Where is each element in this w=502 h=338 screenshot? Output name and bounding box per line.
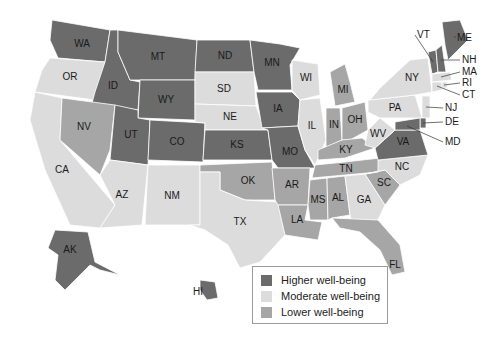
state-label: NE: [223, 111, 237, 122]
state-label: ID: [108, 80, 118, 91]
us-wellbeing-map: WAORCAIDNVMTWYUTAZCONMNDSDNEKSOKTXMNIAMO…: [0, 0, 502, 338]
state-label: NY: [405, 72, 419, 83]
legend-label: Moderate well-being: [281, 290, 380, 302]
state-label: IN: [329, 119, 339, 130]
legend: Higher well-being Moderate well-being Lo…: [252, 266, 388, 324]
state-label: CA: [55, 164, 69, 175]
legend-item-lower: Lower well-being: [261, 304, 387, 320]
state-label: NM: [164, 190, 180, 201]
state-label: DE: [445, 116, 459, 127]
state-label: IL: [308, 120, 317, 131]
legend-item-moderate: Moderate well-being: [261, 288, 387, 304]
legend-label: Lower well-being: [281, 306, 364, 318]
state-label: AR: [285, 179, 299, 190]
state-label: WA: [74, 38, 90, 49]
state-label: WI: [300, 72, 312, 83]
state-label: WV: [370, 128, 386, 139]
state-label: MO: [282, 146, 298, 157]
state-label: NV: [77, 121, 91, 132]
state-label: RI: [462, 77, 472, 88]
state-ak: [48, 230, 120, 290]
state-label: TX: [234, 216, 247, 227]
state-label: UT: [124, 129, 137, 140]
state-label: HI: [193, 286, 203, 297]
state-label: SC: [377, 177, 391, 188]
state-label: KY: [339, 144, 353, 155]
state-md: [395, 118, 420, 130]
state-label: NC: [395, 161, 409, 172]
moderate-swatch-icon: [261, 291, 272, 302]
state-label: AL: [332, 192, 345, 203]
state-label: SD: [217, 83, 231, 94]
state-label: MS: [311, 194, 326, 205]
state-label: VT: [417, 29, 430, 40]
state-label: VA: [397, 136, 410, 147]
state-label: OR: [63, 71, 78, 82]
state-label: CT: [462, 89, 475, 100]
state-label: MA: [462, 66, 477, 77]
state-label: AK: [63, 244, 77, 255]
state-label: CO: [170, 136, 185, 147]
state-label: KS: [230, 139, 244, 150]
state-label: IA: [273, 103, 283, 114]
state-label: MN: [264, 57, 280, 68]
state-label: ND: [218, 50, 232, 61]
state-ny: [370, 58, 432, 100]
state-label: ME: [457, 32, 472, 43]
state-label: PA: [389, 102, 402, 113]
legend-item-higher: Higher well-being: [261, 272, 387, 288]
state-label: NH: [462, 54, 476, 65]
state-label: MD: [445, 136, 461, 147]
lower-swatch-icon: [261, 307, 272, 318]
state-label: OH: [348, 114, 363, 125]
state-label: NJ: [445, 102, 457, 113]
state-label: OK: [241, 175, 256, 186]
state-label: GA: [357, 194, 372, 205]
state-label: MT: [151, 51, 165, 62]
state-label: FL: [389, 259, 401, 270]
higher-swatch-icon: [261, 275, 272, 286]
state-label: TN: [339, 163, 352, 174]
legend-label: Higher well-being: [281, 274, 366, 286]
state-label: WY: [158, 94, 174, 105]
state-label: LA: [291, 214, 304, 225]
state-label: AZ: [116, 189, 129, 200]
state-label: MI: [337, 84, 348, 95]
state-nh: [436, 45, 446, 72]
